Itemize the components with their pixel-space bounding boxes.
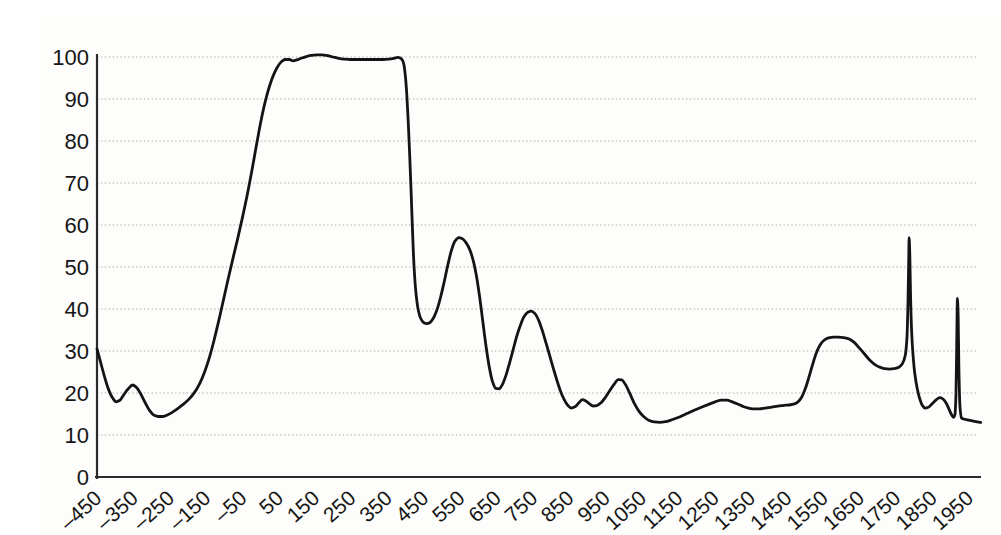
x-tick-label: 1850: [891, 486, 941, 534]
x-tick-label: 550: [427, 486, 468, 527]
x-tick-label: 1050: [600, 486, 650, 534]
x-tick-label: –450: [56, 486, 106, 534]
x-tick-label: 150: [282, 486, 323, 527]
x-tick-label: –350: [92, 486, 142, 534]
y-tick-label: 50: [65, 255, 89, 280]
x-tick-label: 1250: [673, 486, 723, 534]
x-tick-label: 1950: [927, 486, 977, 534]
y-tick-label: 0: [77, 465, 89, 490]
x-tick-label: –150: [165, 486, 215, 534]
x-tick-label: 350: [355, 486, 396, 527]
y-tick-label: 60: [65, 213, 89, 238]
line-chart-figure: 0102030405060708090100–450–350–250–150–5…: [40, 16, 1001, 535]
y-tick-label: 70: [65, 171, 89, 196]
y-tick-label: 80: [65, 129, 89, 154]
x-tick-label: 1650: [818, 486, 868, 534]
x-tick-label: 1550: [782, 486, 832, 534]
x-tick-label: 1350: [709, 486, 759, 534]
y-tick-label: 20: [65, 381, 89, 406]
y-tick-label: 100: [52, 45, 89, 70]
x-tick-label: 1150: [638, 486, 687, 533]
line-chart: 0102030405060708090100–450–350–250–150–5…: [40, 16, 1001, 535]
y-tick-label: 10: [65, 423, 89, 448]
x-tick-label: 450: [391, 486, 432, 527]
data-curve: [97, 55, 981, 423]
x-tick-label: 250: [318, 486, 359, 527]
x-tick-label: –50: [210, 486, 251, 527]
y-tick-label: 40: [65, 297, 89, 322]
y-tick-label: 90: [65, 87, 89, 112]
y-tick-label: 30: [65, 339, 89, 364]
x-tick-label: 50: [255, 486, 288, 519]
x-tick-label: 1450: [746, 486, 796, 534]
x-tick-label: 650: [464, 486, 505, 527]
x-tick-label: –250: [128, 486, 178, 534]
x-tick-label: 850: [536, 486, 577, 527]
x-tick-label: 750: [500, 486, 541, 527]
x-tick-label: 1750: [855, 486, 905, 534]
